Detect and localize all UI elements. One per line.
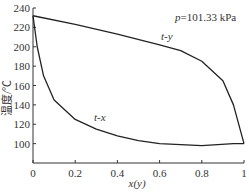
y-tick-label: 160 (14, 80, 31, 92)
chart: 10012014016018020022024000.20.40.60.81p=… (0, 0, 249, 194)
y-tick-label: 240 (14, 2, 31, 14)
x-tick-label: 0 (30, 167, 36, 179)
x-tick-label: 1 (241, 167, 247, 179)
x-tick-label: 0.6 (153, 167, 167, 179)
y-axis-label: 温度/℃ (0, 80, 13, 116)
pressure-annotation: p=101.33 kPa (174, 11, 236, 23)
x-tick-label: 0.4 (111, 167, 125, 179)
x-tick-label: 0.2 (68, 167, 82, 179)
y-tick-label: 180 (14, 60, 31, 72)
y-tick-label: 140 (14, 99, 31, 111)
ty-label: t-y (161, 30, 173, 42)
series-t-y (33, 16, 244, 144)
x-axis-label: x(y) (128, 177, 146, 190)
series-t-x (33, 16, 244, 146)
y-tick-label: 200 (14, 41, 31, 53)
x-tick-label: 0.8 (195, 167, 209, 179)
tx-label: t-x (94, 111, 106, 123)
y-tick-label: 120 (14, 118, 31, 130)
y-tick-label: 100 (14, 138, 31, 150)
y-tick-label: 220 (14, 21, 31, 33)
